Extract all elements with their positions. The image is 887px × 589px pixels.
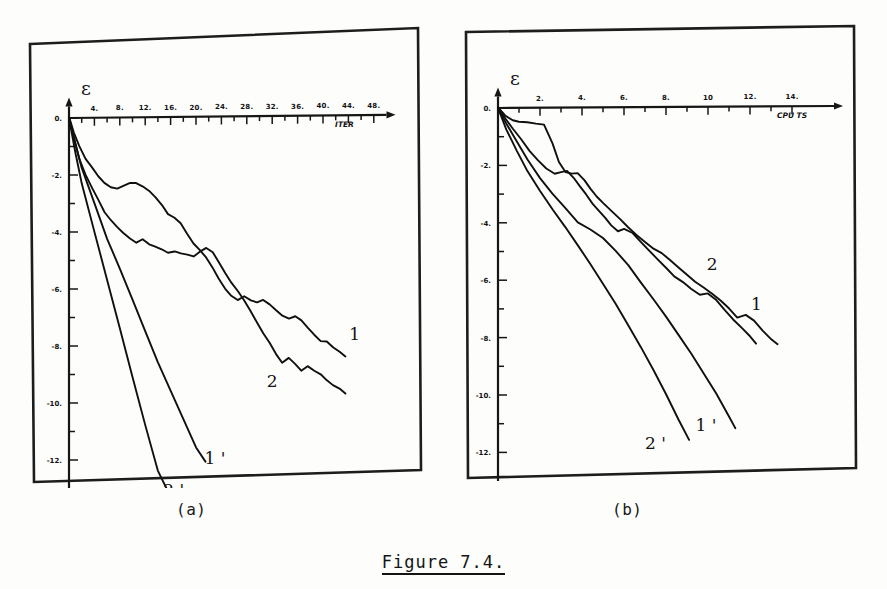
- y-tick-label: 0.: [54, 115, 62, 123]
- y-tick-label: -12.: [476, 449, 491, 457]
- chart-svg-b: ε2.4.6.8.1012.14.CPU TS0.-2.-4.-6.-8.-10…: [460, 18, 860, 488]
- y-tick-label: -2.: [481, 162, 491, 170]
- y-axis-title-epsilon: ε: [510, 67, 520, 89]
- chart-svg-a: ε4.8.12.16.20.24.28.32.36.40.44.48.ITER0…: [24, 18, 424, 488]
- x-axis-title: CPU TS: [777, 111, 807, 120]
- x-tick-label: 6.: [620, 94, 628, 102]
- x-axis-line: [69, 115, 387, 118]
- curve-label: 2: [267, 371, 278, 391]
- curve-1: [69, 118, 345, 357]
- y-tick-label: -6.: [52, 286, 62, 294]
- x-axis-title: ITER: [335, 120, 354, 129]
- figure-caption: Figure 7.4.: [0, 552, 887, 572]
- x-axis-arrow: [387, 111, 396, 118]
- y-axis-arrow: [494, 88, 501, 97]
- curve-2: [69, 118, 345, 394]
- x-tick-label: 8.: [116, 104, 124, 112]
- y-axis-arrow: [65, 98, 72, 107]
- y-tick-label: -4.: [481, 220, 491, 228]
- figure-page: ε4.8.12.16.20.24.28.32.36.40.44.48.ITER0…: [0, 0, 887, 589]
- y-axis-title-epsilon: ε: [81, 77, 91, 99]
- x-tick-label: 20.: [189, 104, 202, 112]
- chart-panel-a: ε4.8.12.16.20.24.28.32.36.40.44.48.ITER0…: [24, 18, 424, 488]
- curve-label: 2 ': [163, 480, 184, 488]
- x-tick-label: 36.: [291, 103, 304, 111]
- x-tick-label: 24.: [215, 103, 228, 111]
- x-tick-label: 48.: [367, 102, 380, 110]
- y-tick-label: -12.: [47, 457, 62, 465]
- curve-label: 2: [707, 254, 718, 274]
- y-tick-label: -4.: [52, 229, 62, 237]
- y-tick-label: 0.: [483, 105, 491, 113]
- x-tick-label: 12.: [743, 93, 756, 101]
- y-tick-label: -10.: [47, 400, 62, 408]
- x-axis-arrow: [834, 102, 843, 109]
- figure-caption-text: Figure 7.4.: [382, 552, 506, 575]
- curve-label: 2 ': [645, 433, 666, 453]
- y-tick-label: -2.: [52, 172, 62, 180]
- curve-label: 1: [751, 294, 762, 314]
- curve-label: 1: [349, 324, 360, 344]
- x-tick-label: 2.: [536, 95, 544, 103]
- x-tick-label: 4.: [90, 105, 98, 113]
- x-tick-label: 32.: [266, 103, 279, 111]
- y-tick-label: -10.: [476, 392, 491, 400]
- x-tick-label: 4.: [578, 94, 586, 102]
- panel-b-caption: (b): [612, 500, 642, 519]
- curve-1prime: [69, 118, 206, 462]
- curve-1: [498, 108, 777, 345]
- panel-a-caption: (a): [176, 500, 206, 519]
- y-tick-label: -8.: [481, 335, 491, 343]
- curve-label: 1 ': [205, 448, 226, 468]
- y-tick-label: -8.: [52, 343, 62, 351]
- curve-label: 1 ': [695, 415, 716, 435]
- chart-panel-b: ε2.4.6.8.1012.14.CPU TS0.-2.-4.-6.-8.-10…: [460, 18, 860, 488]
- x-tick-label: 10: [703, 94, 713, 102]
- y-tick-label: -6.: [481, 277, 491, 285]
- x-tick-label: 8.: [662, 94, 670, 102]
- x-tick-label: 12.: [139, 104, 152, 112]
- x-tick-label: 44.: [342, 102, 355, 110]
- x-tick-label: 14.: [785, 93, 798, 101]
- x-tick-label: 40.: [316, 102, 329, 110]
- x-tick-label: 16.: [164, 104, 177, 112]
- x-tick-label: 28.: [240, 103, 253, 111]
